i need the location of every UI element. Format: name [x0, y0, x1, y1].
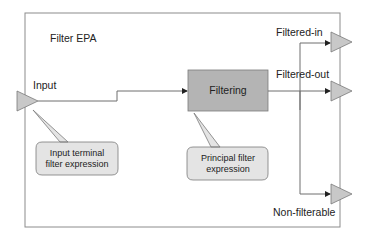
non-filterable-connector	[300, 91, 330, 194]
filter-epa-frame	[25, 13, 340, 227]
filter-epa-diagram: Filter EPA Input Filtering Filtered-in F…	[0, 0, 367, 241]
diagram-title: Filter EPA	[50, 32, 96, 44]
filtered-out-terminal-icon[interactable]	[331, 81, 352, 101]
callout-2-line-2: expression	[206, 164, 250, 174]
filtered-out-label: Filtered-out	[276, 68, 329, 80]
input-terminal-callout: Input terminal filter expression	[33, 110, 118, 175]
principal-filter-callout: Principal filter expression	[187, 113, 268, 180]
non-filterable-terminal-icon[interactable]	[331, 184, 352, 204]
callout-1-line-1: Input terminal	[50, 148, 105, 158]
input-connector	[38, 91, 187, 101]
non-filterable-label: Non-filterable	[273, 206, 336, 218]
input-label: Input	[33, 79, 56, 91]
input-terminal-icon[interactable]	[17, 91, 38, 111]
filtering-box[interactable]: Filtering	[188, 70, 268, 111]
filtering-label: Filtering	[209, 84, 247, 96]
callout-1-line-2: filter expression	[45, 159, 108, 169]
callout-2-line-1: Principal filter	[201, 153, 255, 163]
filtered-in-terminal-icon[interactable]	[331, 32, 352, 52]
filtered-in-label: Filtered-in	[276, 26, 323, 38]
